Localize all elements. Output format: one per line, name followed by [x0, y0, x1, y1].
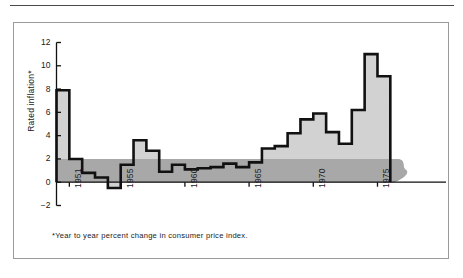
top-rule	[10, 5, 454, 6]
y-tick-label: −2	[33, 200, 51, 210]
chart-footnote: *Year to year percent change in consumer…	[52, 231, 248, 240]
y-tick-label: 8	[33, 84, 51, 94]
y-tick-label: 6	[33, 107, 51, 117]
x-tick-label: 1960	[189, 168, 199, 188]
x-tick-label: 1955	[125, 168, 135, 188]
figure-frame	[13, 22, 449, 259]
y-tick-label: 10	[33, 60, 51, 70]
x-tick-label: 1970	[317, 168, 327, 188]
y-tick-label: 4	[33, 130, 51, 140]
x-tick-label: 1975	[381, 168, 391, 188]
y-tick-label: 12	[33, 37, 51, 47]
y-tick-label: 0	[33, 177, 51, 187]
x-tick-label: 1965	[253, 168, 263, 188]
x-tick-label: 1951	[73, 168, 83, 188]
y-tick-label: 2	[33, 153, 51, 163]
